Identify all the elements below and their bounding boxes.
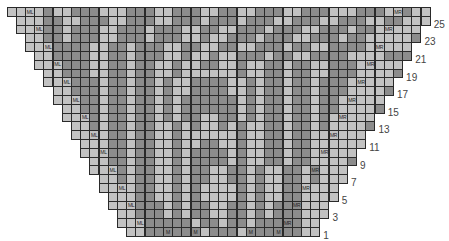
- row-number: 5: [342, 195, 348, 206]
- stitch-label-m: M: [191, 228, 200, 237]
- stitch-label-m: M: [246, 228, 255, 237]
- row-number: 3: [333, 212, 339, 223]
- row-number: 17: [397, 89, 408, 100]
- chart-cell: [421, 16, 431, 26]
- row-number: 19: [406, 72, 417, 83]
- chart-cell: [402, 51, 412, 61]
- chart-cell: [338, 174, 348, 184]
- row-number: 9: [360, 160, 366, 171]
- chart-cell: [329, 192, 339, 202]
- chart-cell: [356, 139, 366, 149]
- chart-cell: [411, 33, 421, 43]
- row-number: 23: [425, 36, 436, 47]
- row-number: 13: [379, 124, 390, 135]
- stitch-label-m: M: [274, 228, 283, 237]
- row-number: 15: [388, 107, 399, 118]
- row-number: 1: [323, 230, 329, 241]
- row-number: 7: [351, 177, 357, 188]
- row-number: 11: [369, 142, 379, 153]
- chart-cell: [310, 227, 320, 237]
- chart-cell: [375, 104, 385, 114]
- stitch-label-m: M: [163, 228, 172, 237]
- chart-cell: [384, 86, 394, 96]
- chart-cell: [319, 209, 329, 219]
- knitting-chart: MLMR25MLMR23MLMR21MLMR19MLMR17MLMR15MLMR…: [0, 0, 449, 241]
- chart-cell: [393, 69, 403, 79]
- chart-cell: [365, 121, 375, 131]
- row-number: 25: [434, 19, 445, 30]
- chart-cell: [347, 157, 357, 167]
- row-number: 21: [415, 54, 426, 65]
